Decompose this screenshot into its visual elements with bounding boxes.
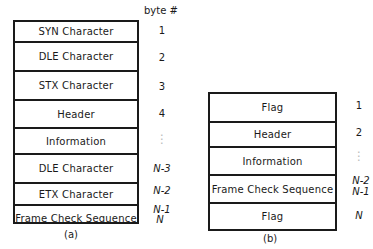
field-header: Header bbox=[15, 101, 137, 129]
ellipsis-vertical-icon: ⋮ bbox=[147, 133, 177, 145]
byte-number: N-2 bbox=[147, 185, 177, 196]
byte-number-header: byte # bbox=[144, 5, 178, 16]
byte-number: N-3 bbox=[147, 163, 177, 174]
field-label: Header bbox=[254, 129, 292, 140]
field-information: Information bbox=[210, 148, 335, 176]
field-label: SYN Character bbox=[38, 26, 113, 37]
byte-number: 1 bbox=[147, 25, 177, 36]
field-information: Information bbox=[15, 129, 137, 155]
field-label: Flag bbox=[262, 102, 284, 113]
byte-number: N bbox=[145, 214, 175, 225]
frame-b-diagram: Flag Header Information Frame Check Sequ… bbox=[208, 92, 337, 231]
field-flag-start: Flag bbox=[210, 94, 335, 123]
field-stx-character: STX Character bbox=[15, 72, 137, 101]
field-label: Information bbox=[46, 136, 106, 147]
byte-number: 2 bbox=[344, 127, 373, 138]
field-label: Header bbox=[57, 109, 95, 120]
field-syn-character: SYN Character bbox=[15, 22, 137, 43]
field-frame-check-sequence: Frame Check Sequence bbox=[210, 176, 335, 204]
field-label: Frame Check Sequence bbox=[212, 184, 334, 195]
field-label: Flag bbox=[262, 211, 284, 222]
byte-number: 4 bbox=[147, 108, 177, 119]
field-label: STX Character bbox=[39, 80, 113, 91]
byte-number: N-1 bbox=[346, 186, 373, 197]
field-flag-end: Flag bbox=[210, 204, 335, 229]
field-header: Header bbox=[210, 123, 335, 148]
field-label: DLE Character bbox=[39, 163, 114, 174]
byte-number: N-2 bbox=[346, 175, 373, 186]
field-dle-character: DLE Character bbox=[15, 43, 137, 72]
byte-number: 3 bbox=[147, 81, 177, 92]
field-label: DLE Character bbox=[39, 51, 114, 62]
byte-number: 2 bbox=[147, 52, 177, 63]
field-dle-character-end: DLE Character bbox=[15, 155, 137, 184]
field-etx-character: ETX Character bbox=[15, 184, 137, 206]
frame-a-diagram: SYN Character DLE Character STX Characte… bbox=[13, 20, 139, 224]
field-label: ETX Character bbox=[39, 189, 113, 200]
byte-number: 1 bbox=[344, 100, 373, 111]
field-label: Frame Check Sequence bbox=[15, 213, 137, 224]
caption-a: (a) bbox=[64, 229, 78, 240]
ellipsis-vertical-icon: ⋮ bbox=[344, 150, 373, 162]
caption-b: (b) bbox=[263, 233, 277, 244]
byte-number: N bbox=[344, 210, 373, 221]
field-frame-check-sequence: Frame Check Sequence bbox=[15, 206, 137, 224]
field-label: Information bbox=[242, 156, 302, 167]
